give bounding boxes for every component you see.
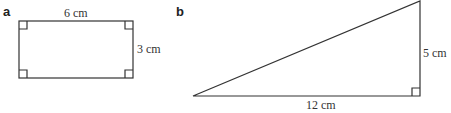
right-angle-marker xyxy=(125,21,133,29)
right-angle-marker xyxy=(125,70,133,78)
figure-b-label: b xyxy=(176,4,184,19)
triangle-height-length: 5 cm xyxy=(423,46,447,61)
right-angle-marker xyxy=(19,70,27,78)
right-angle-marker xyxy=(412,88,420,96)
rectangle-right-length: 3 cm xyxy=(137,42,161,57)
right-angle-marker xyxy=(19,21,27,29)
triangle-base-length: 12 cm xyxy=(306,98,336,113)
rectangle-a xyxy=(19,21,133,78)
rectangle-top-length: 6 cm xyxy=(64,6,88,21)
figure-a-label: a xyxy=(3,4,10,19)
triangle-b xyxy=(193,1,420,96)
